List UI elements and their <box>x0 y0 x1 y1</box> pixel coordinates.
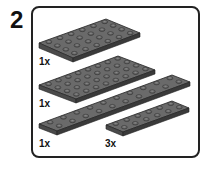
part-quantity: 1x <box>39 56 50 67</box>
part-quantity: 3x <box>105 138 116 149</box>
part-quantity: 1x <box>39 138 50 149</box>
part-quantity: 1x <box>39 98 50 109</box>
